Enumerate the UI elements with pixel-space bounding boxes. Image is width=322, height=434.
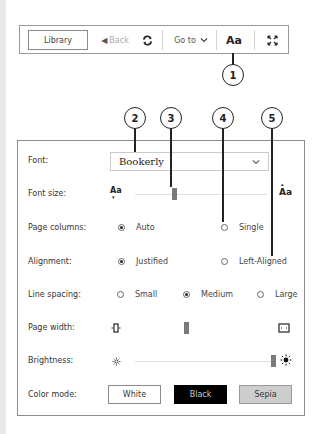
line-spacing-label: Line spacing:: [28, 290, 81, 299]
radio-spacing-large[interactable]: Large: [257, 290, 298, 299]
brightness-low-icon[interactable]: [112, 357, 121, 366]
page-width-label: Page width:: [28, 323, 75, 332]
brightness-slider[interactable]: [135, 361, 271, 362]
back-button[interactable]: ◀ Back: [95, 30, 135, 50]
color-mode-label-sepia: Sepia: [254, 390, 276, 399]
radio-columns-single[interactable]: Single: [221, 223, 264, 232]
callout-1: 1: [222, 64, 244, 86]
font-size-large-glyph: Aa: [279, 187, 292, 197]
brightness-label: Brightness:: [28, 356, 73, 365]
chevron-down-icon: [200, 37, 208, 43]
radio-label: Large: [275, 290, 298, 299]
font-dropdown[interactable]: Bookerly: [110, 152, 269, 171]
sync-icon: [142, 35, 153, 46]
brightness-slider-thumb[interactable]: [271, 355, 276, 367]
radio-selected-icon: [183, 291, 190, 298]
toolbar-divider: [254, 30, 255, 50]
brightness-high-icon[interactable]: [280, 354, 292, 366]
radio-alignment-justified[interactable]: Justified: [118, 257, 168, 266]
color-mode-label-white: White: [123, 390, 146, 399]
radio-unselected-icon: [221, 224, 228, 231]
page-columns-label: Page columns:: [28, 223, 86, 232]
library-button[interactable]: Library: [28, 30, 88, 50]
callout-number: 5: [269, 113, 276, 124]
callout-number: 2: [132, 113, 139, 124]
callout-number: 4: [220, 113, 227, 124]
triangle-left-icon: ◀: [101, 36, 107, 45]
callout-2: 2: [124, 107, 146, 129]
display-settings-panel: Font: Bookerly Font size: Aa▾ ▴Aa Page c…: [17, 140, 305, 416]
font-settings-button[interactable]: Aa: [220, 30, 248, 50]
radio-label: Single: [239, 223, 264, 232]
color-mode-sepia-button[interactable]: Sepia: [239, 385, 292, 404]
callout-3: 3: [160, 107, 182, 129]
goto-button[interactable]: Go to: [168, 30, 214, 50]
chevron-down-icon: [252, 159, 260, 165]
goto-label: Go to: [174, 36, 196, 45]
radio-label: Auto: [136, 223, 155, 232]
left-edge-strip: [0, 0, 6, 434]
back-label: Back: [109, 36, 128, 45]
callout-number: 3: [168, 113, 175, 124]
font-size-increase-icon[interactable]: ▴Aa: [279, 182, 292, 197]
radio-spacing-medium[interactable]: Medium: [183, 290, 233, 299]
library-label: Library: [44, 36, 72, 45]
radio-spacing-small[interactable]: Small: [117, 290, 157, 299]
font-size-label: Font size:: [28, 189, 66, 198]
callout-5: 5: [261, 107, 283, 129]
radio-alignment-left[interactable]: Left-Aligned: [221, 257, 287, 266]
callout-number: 1: [230, 70, 237, 81]
wide-page-icon[interactable]: [278, 323, 290, 333]
radio-label: Medium: [201, 290, 233, 299]
color-mode-label-black: Black: [190, 390, 212, 399]
radio-selected-icon: [118, 224, 125, 231]
radio-label: Left-Aligned: [239, 257, 287, 266]
color-mode-label: Color mode:: [28, 390, 77, 399]
callout-leader-line: [222, 127, 224, 222]
radio-columns-auto[interactable]: Auto: [118, 223, 155, 232]
color-mode-black-button[interactable]: Black: [174, 385, 227, 404]
font-settings-label: Aa: [226, 34, 242, 47]
page-width-slider-thumb[interactable]: [184, 322, 189, 334]
radio-unselected-icon: [221, 258, 228, 265]
reader-toolbar: Library ◀ Back Go to Aa: [19, 25, 289, 54]
color-mode-white-button[interactable]: White: [108, 385, 161, 404]
callout-leader-line: [271, 127, 273, 256]
font-dropdown-value: Bookerly: [119, 156, 164, 167]
font-size-slider-thumb[interactable]: [172, 188, 177, 200]
callout-4: 4: [212, 107, 234, 129]
callout-leader-line: [170, 127, 172, 187]
radio-unselected-icon: [117, 291, 124, 298]
sync-button[interactable]: [136, 30, 158, 50]
font-size-decrease-icon[interactable]: Aa▾: [110, 186, 122, 199]
font-size-slider[interactable]: [135, 194, 267, 195]
toolbar-divider: [162, 30, 163, 50]
toolbar-divider: [216, 30, 217, 50]
narrow-page-icon[interactable]: [111, 323, 121, 333]
radio-selected-icon: [118, 258, 125, 265]
radio-label: Justified: [136, 257, 168, 266]
fullscreen-icon: [267, 35, 278, 46]
radio-unselected-icon: [257, 291, 264, 298]
alignment-label: Alignment:: [28, 257, 72, 266]
radio-label: Small: [135, 290, 157, 299]
font-label: Font:: [28, 156, 48, 165]
callout-leader-line: [134, 127, 136, 152]
fullscreen-button[interactable]: [260, 30, 284, 50]
